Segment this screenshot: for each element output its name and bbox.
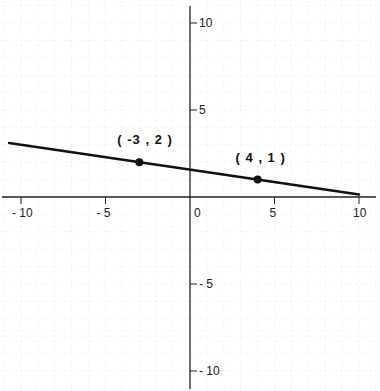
data-point: [135, 158, 143, 166]
data-point: [254, 176, 262, 184]
data-point-label: ( -3 , 2 ): [117, 132, 173, 147]
x-tick-label: 10: [353, 206, 367, 220]
line-series: [9, 143, 359, 195]
data-points: ( -3 , 2 )( 4 , 1 ): [117, 132, 285, 183]
data-line: [9, 143, 359, 195]
x-tick-label: 5: [270, 206, 277, 220]
y-tick-label: - 5: [199, 277, 213, 291]
y-tick-label: 10: [199, 16, 213, 30]
coordinate-plane: - 10- 50510105- 5- 10 ( -3 , 2 )( 4 , 1 …: [0, 0, 380, 391]
axes: [2, 6, 376, 389]
x-tick-label: - 5: [97, 206, 111, 220]
data-point-label: ( 4 , 1 ): [236, 150, 286, 165]
y-tick-label: 5: [199, 103, 206, 117]
x-tick-label: 0: [194, 206, 201, 220]
x-tick-label: - 10: [12, 206, 33, 220]
y-tick-label: - 10: [199, 364, 220, 378]
